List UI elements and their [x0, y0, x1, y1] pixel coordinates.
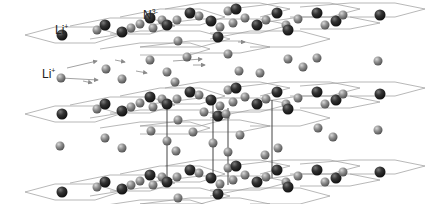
migration-arrow — [136, 71, 147, 73]
li-cation-atom — [173, 16, 182, 25]
li-cation-atom — [241, 171, 250, 180]
li-cation-atom — [299, 63, 308, 72]
n-anion-atom — [206, 16, 217, 27]
n-anion-atom — [252, 177, 263, 188]
layer-mesh-group — [25, 3, 425, 204]
li-label-top: Li+ — [55, 24, 68, 36]
li-cation-atom — [314, 124, 323, 133]
li-cation-atom — [339, 90, 348, 99]
li-cation-atom — [262, 16, 271, 25]
li-cation-atom — [189, 128, 198, 137]
li-cation-atom — [171, 78, 180, 87]
li-cation-atom — [118, 144, 127, 153]
n-anion-atom — [272, 87, 283, 98]
n-anion-atom — [312, 8, 323, 19]
n-anion-atom — [252, 99, 263, 110]
n-anion-atom — [252, 20, 263, 31]
li-cation-atom — [329, 133, 338, 142]
li-cation-atom — [339, 11, 348, 20]
n-anion-atom — [312, 87, 323, 98]
li-cation-atom — [57, 74, 66, 83]
li-cation-atom — [224, 148, 233, 157]
li-cation-atom — [173, 95, 182, 104]
li-cation-atom — [222, 110, 231, 119]
li-cation-atom — [229, 98, 238, 107]
n-anion-atom — [57, 109, 68, 120]
li-cation-atom — [294, 172, 303, 181]
n-anion-atom — [185, 8, 196, 19]
li-cation-atom — [256, 69, 265, 78]
li-cation-atom — [149, 103, 158, 112]
li-cation-atom — [261, 151, 270, 160]
li-cation-atom — [236, 131, 245, 140]
hexagonal-mesh-line — [260, 96, 380, 108]
li-cation-atom — [56, 142, 65, 151]
hexagonal-mesh-line — [260, 17, 380, 29]
li-cation-atom — [149, 24, 158, 33]
n-anion-atom — [283, 104, 294, 115]
n-anion-atom — [283, 25, 294, 36]
n-anion-atom — [145, 92, 156, 103]
li-label-top-base: Li — [55, 23, 64, 37]
li-cation-atom — [183, 53, 192, 62]
n-anion-atom — [213, 189, 224, 200]
li-cation-atom — [149, 181, 158, 190]
n-label-top-base: N — [143, 8, 152, 22]
n-anion-atom — [375, 10, 386, 21]
n-anion-atom — [206, 95, 217, 106]
n-anion-atom — [231, 83, 242, 94]
li-cation-atom — [136, 177, 145, 186]
li-label-mid-base: Li — [42, 67, 51, 81]
li-cation-atom — [339, 168, 348, 177]
n-anion-atom — [375, 89, 386, 100]
li-cation-atom — [173, 173, 182, 182]
n-anion-atom — [231, 161, 242, 172]
n-anion-atom — [206, 173, 217, 184]
n-anion-atom — [117, 27, 128, 38]
crystal-structure-diagram: Li+ N3- Li+ — [0, 0, 438, 204]
li-cation-atom — [102, 65, 111, 74]
n-anion-atom — [213, 111, 224, 122]
n-anion-atom — [213, 32, 224, 43]
n-anion-atom — [283, 182, 294, 193]
li-cation-atom — [313, 54, 322, 63]
li-cation-atom — [274, 144, 283, 153]
li-label-top-charge: + — [64, 23, 68, 30]
li-cation-atom — [241, 93, 250, 102]
li-cation-atom — [262, 173, 271, 182]
li-cation-atom — [163, 68, 172, 77]
li-cation-atom — [262, 95, 271, 104]
li-cation-atom — [101, 134, 110, 143]
n-anion-atom — [185, 87, 196, 98]
migration-arrow — [61, 78, 98, 80]
li-cation-atom — [241, 14, 250, 23]
li-cation-atom — [216, 102, 225, 111]
li-cation-atom — [321, 100, 330, 109]
li-label-mid: Li+ — [42, 68, 55, 80]
li-cation-atom — [174, 37, 183, 46]
li-cation-atom — [195, 12, 204, 21]
li-cation-atom — [235, 67, 244, 76]
n-anion-atom — [117, 184, 128, 195]
n-label-top: N3- — [143, 9, 158, 21]
li-cation-atom — [294, 94, 303, 103]
hexagonal-mesh-line — [260, 174, 380, 186]
migration-arrow — [115, 60, 125, 62]
li-cation-atom — [321, 178, 330, 187]
li-cation-atom — [172, 147, 181, 156]
migration-arrow — [83, 81, 92, 83]
n-anion-atom — [185, 165, 196, 176]
n-anion-atom — [145, 170, 156, 181]
li-cation-atom — [209, 139, 218, 148]
n-anion-atom — [117, 106, 128, 117]
n-anion-atom — [231, 4, 242, 15]
li-cation-atom — [200, 108, 209, 117]
n-anion-atom — [100, 20, 111, 31]
li-cation-atom — [127, 103, 136, 112]
li-cation-atom — [321, 21, 330, 30]
li-cation-atom — [118, 75, 127, 84]
li-cation-atom — [216, 23, 225, 32]
li-cation-atom — [229, 19, 238, 28]
li-cation-atom — [229, 176, 238, 185]
li-cation-atom — [174, 116, 183, 125]
